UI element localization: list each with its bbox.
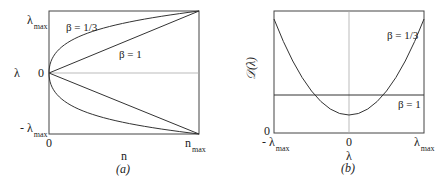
panel-b-caption: (b) — [341, 162, 355, 174]
panel-a-xtick-zero: 0 — [46, 137, 52, 149]
panel-a-curve-label-beta1: β = 1 — [119, 48, 142, 60]
panel-a-ytick-min: - λmax — [20, 122, 48, 136]
panel-b-xtick-max: λmax — [414, 136, 435, 150]
panel-b-curve-label-beta13: β = 1/3 — [387, 29, 418, 41]
panel-a-curve-label-beta13: β = 1/3 — [66, 21, 97, 33]
panel-b-xtick-zero: 0 — [346, 136, 352, 148]
panel-a-caption: (a) — [116, 163, 130, 175]
panel-b-xtick-min: - λmax — [262, 136, 290, 150]
panel-b-ylabel: 𝒟(λ) — [244, 57, 259, 80]
panel-a-ytick-max: λmax — [27, 14, 48, 28]
panel-a-ylabel: λ — [14, 67, 20, 79]
panel-a-ytick-zero: 0 — [38, 67, 44, 79]
panel-a-beta1-lower — [49, 73, 199, 134]
panel-b-curve-label-beta1: β = 1 — [398, 98, 421, 110]
panel-a-xlabel: n — [121, 150, 127, 162]
panel-a-xtick-max: nmax — [185, 137, 206, 151]
